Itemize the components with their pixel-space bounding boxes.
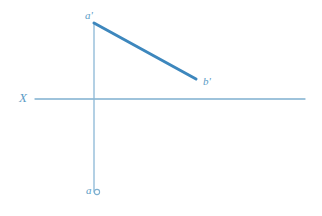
projection-diagram-svg: [0, 0, 322, 216]
point-label-a-prime: a': [85, 10, 93, 21]
line-segment-a-prime-b-prime: [94, 23, 196, 79]
point-marker-a-icon: [94, 189, 99, 194]
point-label-a: a: [86, 185, 92, 196]
point-label-b-prime: b': [203, 76, 211, 87]
drawing-canvas: X a' b' a: [0, 0, 322, 216]
axis-label-x: X: [19, 91, 27, 104]
